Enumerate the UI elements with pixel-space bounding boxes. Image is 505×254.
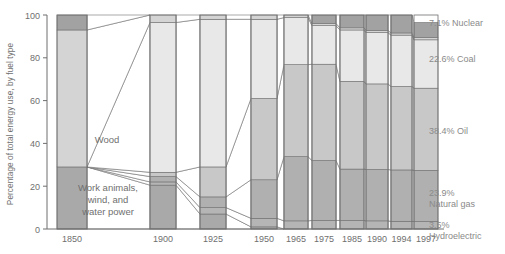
connector-bands [87,15,414,229]
bar-segment-hydroelectric[interactable] [366,221,388,229]
bar-segment-oil[interactable] [200,167,226,197]
bar-segment-work-animals-wind-and-water-power[interactable] [57,167,87,229]
x-tick-label: 1994 [391,234,411,244]
bar-column[interactable] [312,15,336,229]
y-tick-marks [43,15,47,229]
side-label-hydro-name: Hydroelectric [429,231,482,241]
y-axis-title: Percentage of total energy use, by fuel … [6,42,15,205]
x-tick-label: 1900 [153,234,173,244]
bar-segment-hydroelectric[interactable] [340,220,364,229]
y-tick-labels: 100806040200 [25,11,40,235]
bar-segment-nuclear[interactable] [340,15,364,28]
side-label-nuclear: 7.1% Nuclear [429,18,483,28]
bar-segment-work-animals-wind-and-water-power[interactable] [150,185,176,229]
bar-column[interactable] [57,15,87,229]
bar-segment-coal[interactable] [391,35,412,86]
bar-segment-wood[interactable] [414,38,438,40]
annotation-work-animals-line1: Work animals, [78,182,138,193]
connector-band [388,33,391,87]
bar-segment-nuclear[interactable] [366,15,388,30]
connector-band [388,15,391,33]
x-tick-label: 1990 [367,234,387,244]
x-tick-label: 1975 [314,234,334,244]
bar-segment-wood[interactable] [251,15,277,19]
bar-segment-hydroelectric[interactable] [150,182,176,185]
x-tick-label: 1985 [342,234,362,244]
bar-segment-wood[interactable] [57,30,87,167]
bar-segment-natural-gas[interactable] [366,170,388,221]
chart-root: Percentage of total energy use, by fuel … [0,0,505,254]
bar-segment-oil[interactable] [284,65,308,157]
side-label-coal: 22.6% Coal [429,54,476,64]
connector-band [388,221,391,229]
bar-segment-nuclear[interactable] [57,15,87,30]
bar-segment-wood[interactable] [366,30,388,32]
y-tick-label: 80 [30,53,40,63]
annotation-wood: Wood [95,134,120,145]
bar-segment-coal[interactable] [150,22,176,172]
bar-segment-natural-gas[interactable] [251,180,277,219]
bar-segment-oil[interactable] [366,84,388,170]
side-label-oil: 38.4% Oil [429,126,468,136]
bar-segment-natural-gas[interactable] [284,157,308,221]
connector-band [226,15,251,19]
bar-segment-oil[interactable] [340,81,364,169]
bar-column[interactable] [251,15,277,229]
x-tick-label: 1950 [254,234,274,244]
bar-segment-nuclear[interactable] [391,15,412,33]
bar-segment-hydroelectric[interactable] [284,221,308,229]
y-tick-label: 20 [30,182,40,192]
x-tick-labels: 1850190019251950196519751985199019941997 [62,234,436,244]
connector-band [388,170,391,222]
bar-column[interactable] [340,15,364,229]
bar-segment-work-animals-wind-and-water-power[interactable] [200,214,226,229]
bar-segment-hydroelectric[interactable] [391,221,412,229]
x-tick-label: 1965 [286,234,306,244]
side-label-hydro-pct: 3.5% [429,220,450,230]
bar-segment-wood[interactable] [150,15,176,22]
bar-segment-wood[interactable] [340,28,364,30]
bar-segment-wood[interactable] [312,24,336,26]
connector-band [336,220,340,229]
bar-segment-oil[interactable] [391,86,412,169]
bar-segment-wood[interactable] [391,33,412,35]
bar-segment-oil[interactable] [251,98,277,179]
y-tick-label: 0 [35,225,40,235]
bar-segment-coal[interactable] [251,19,277,98]
y-tick-label: 100 [25,11,40,21]
connector-band [308,157,312,221]
bar-segment-wood[interactable] [200,15,226,19]
bar-segment-natural-gas[interactable] [150,177,176,182]
y-tick-label: 40 [30,139,40,149]
side-label-natural-gas-pct: 23.9% [429,188,455,198]
bar-segment-natural-gas[interactable] [312,161,336,221]
bar-column[interactable] [284,15,308,229]
bar-segment-oil[interactable] [150,172,176,176]
bar-segment-natural-gas[interactable] [340,169,364,220]
bar-segment-oil[interactable] [312,64,336,160]
bar-segment-coal[interactable] [200,19,226,167]
x-tick-label: 1925 [203,234,223,244]
bar-segment-coal[interactable] [284,18,308,65]
y-tick-label: 60 [30,96,40,106]
connector-band [176,19,200,172]
bar-column[interactable] [200,15,226,229]
bar-segment-coal[interactable] [340,30,364,81]
bar-column[interactable] [391,15,412,229]
bar-column[interactable] [150,15,176,229]
bar-segment-hydroelectric[interactable] [312,220,336,229]
side-label-natural-gas-name: Natural gas [429,199,476,209]
bar-column[interactable] [366,15,388,229]
bar-segment-nuclear[interactable] [312,15,336,24]
annotation-work-animals-line2: wind, and [87,194,129,205]
annotation-work-animals-line3: water power [81,206,134,217]
connector-band [308,220,312,229]
bar-segment-coal[interactable] [312,26,336,65]
x-tick-label: 1850 [62,234,82,244]
bar-segment-coal[interactable] [366,33,388,84]
bar-segment-hydroelectric[interactable] [251,218,277,227]
bar-segment-hydroelectric[interactable] [200,208,226,214]
bar-segment-natural-gas[interactable] [200,197,226,208]
bar-segment-natural-gas[interactable] [391,170,412,221]
bar-segment-coal[interactable] [414,40,438,88]
